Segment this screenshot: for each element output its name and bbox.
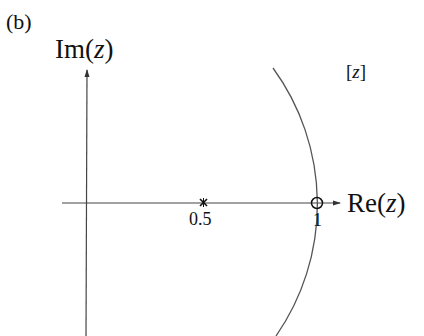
imag-axis-label: Im(z) <box>55 34 114 64</box>
pole-zero-plot: (b) Im(z) [z] Re(z) 0.5 1 <box>0 0 424 336</box>
panel-label: (b) <box>6 9 32 34</box>
unit-circle-arc <box>273 68 317 336</box>
zero-label: 1 <box>313 210 322 230</box>
pole-label: 0.5 <box>189 209 212 229</box>
real-axis-label: Re(z) <box>347 188 406 218</box>
plane-label: [z] <box>346 61 366 82</box>
